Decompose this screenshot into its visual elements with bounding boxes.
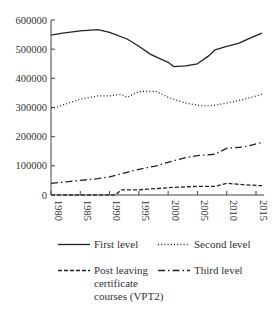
legend-label: Second level	[194, 238, 251, 251]
series-line-dash-dot	[51, 143, 262, 184]
x-tick-label: 1995	[140, 200, 151, 221]
legend-item-third-level: Third level	[158, 264, 243, 277]
y-tick-label: 100000	[16, 160, 48, 171]
line-chart: 0100000200000300000400000500000600000 19…	[0, 0, 272, 232]
legend-label: Post leaving certificate courses (VPT2)	[94, 264, 163, 303]
x-tick-label: 1980	[53, 200, 64, 221]
dashed-line-swatch-icon	[58, 264, 90, 277]
x-tick-label: 2015	[258, 200, 269, 221]
y-tick-label: 500000	[16, 44, 48, 55]
x-tick-label: 2010	[228, 200, 239, 221]
plot-lines	[51, 30, 262, 195]
dash-dot-line-swatch-icon	[158, 264, 190, 277]
y-tick-label: 200000	[16, 131, 48, 142]
y-tick-label: 600000	[16, 15, 48, 26]
legend-label: Third level	[194, 264, 243, 277]
y-tick-label: 0	[42, 190, 47, 201]
x-tick-label: 1985	[82, 200, 93, 221]
x-tick-label: 2005	[199, 200, 210, 221]
y-tick-label: 300000	[16, 102, 48, 113]
series-line-dotted	[51, 92, 262, 110]
y-tick-label: 400000	[16, 73, 48, 84]
series-line-dashed	[51, 183, 262, 195]
solid-line-swatch-icon	[58, 238, 90, 251]
series-line-solid	[51, 30, 262, 67]
dotted-line-swatch-icon	[158, 238, 190, 251]
chart-legend: First level Second level Post leaving ce…	[0, 232, 272, 310]
legend-item-first-level: First level	[58, 238, 138, 251]
legend-item-post-leaving-certificate: Post leaving certificate courses (VPT2)	[58, 264, 163, 303]
legend-label: First level	[94, 238, 138, 251]
y-axis-ticks: 0100000200000300000400000500000600000	[16, 15, 56, 201]
legend-item-second-level: Second level	[158, 238, 251, 251]
x-tick-label: 1990	[111, 200, 122, 221]
x-tick-label: 2000	[170, 200, 181, 221]
